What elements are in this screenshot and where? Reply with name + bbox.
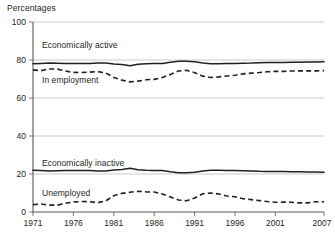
series-line-economically-inactive <box>33 168 324 173</box>
y-tick-marks <box>29 22 33 212</box>
ytick-label-0: 0 <box>21 207 26 217</box>
series-line-economically-active <box>33 61 324 66</box>
xtick-label-1981: 1981 <box>104 218 123 228</box>
xtick-label-1996: 1996 <box>226 218 245 228</box>
ytick-label-60: 60 <box>17 93 27 103</box>
xtick-label-1986: 1986 <box>145 218 164 228</box>
ytick-label-40: 40 <box>17 131 27 141</box>
y-tick-labels: 100 80 60 40 20 0 <box>12 17 26 217</box>
xtick-label-1991: 1991 <box>185 218 204 228</box>
axes-group <box>33 22 324 212</box>
x-tick-marks <box>33 212 324 216</box>
ytick-label-80: 80 <box>17 55 27 65</box>
ytick-label-100: 100 <box>12 17 26 27</box>
series-label-economically-active: Economically active <box>42 40 118 50</box>
series-label-in-employment: In employment <box>42 75 99 85</box>
series-label-economically-inactive: Economically inactive <box>42 158 125 168</box>
line-chart-plot: 100 80 60 40 20 0 1971 1976 1981 1986 19… <box>0 0 335 239</box>
xtick-label-1976: 1976 <box>64 218 83 228</box>
ytick-label-20: 20 <box>17 169 27 179</box>
chart-container: Percentages 100 80 60 40 20 0 <box>0 0 335 239</box>
series-label-unemployed: Unemployed <box>42 188 90 198</box>
xtick-label-2007: 2007 <box>313 218 332 228</box>
xtick-label-2001: 2001 <box>266 218 285 228</box>
xtick-label-1971: 1971 <box>24 218 43 228</box>
x-tick-labels: 1971 1976 1981 1986 1991 1996 2001 2007 <box>24 218 332 228</box>
